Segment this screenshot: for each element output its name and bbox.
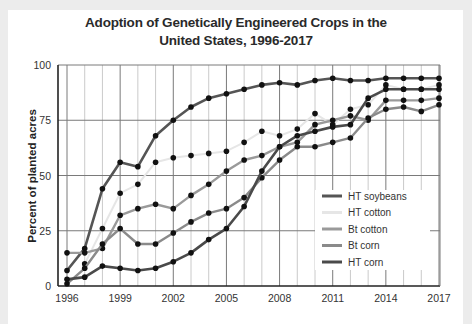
data-point (188, 250, 194, 256)
data-point (100, 263, 106, 269)
data-point (64, 268, 70, 274)
data-point (294, 126, 300, 132)
data-point (330, 140, 336, 146)
x-tick-label: 1996 (55, 292, 79, 304)
data-point (188, 104, 194, 110)
data-point (259, 153, 265, 159)
data-point (117, 190, 123, 196)
data-point (418, 109, 424, 115)
y-axis-label: Percent of planted acres (26, 109, 38, 243)
data-point (117, 159, 123, 165)
data-point (383, 87, 389, 93)
data-point (206, 95, 212, 101)
legend-label: HT corn (348, 257, 383, 268)
data-point (330, 124, 336, 130)
data-point (436, 75, 442, 81)
data-point (436, 87, 442, 93)
data-point (401, 87, 407, 93)
data-point (401, 104, 407, 110)
data-point (348, 135, 354, 141)
data-point (153, 159, 159, 165)
data-point (224, 91, 230, 97)
data-point (224, 168, 230, 174)
data-point (153, 133, 159, 139)
data-point (294, 133, 300, 139)
data-point (348, 113, 354, 119)
legend-label: Bt cotton (348, 224, 387, 235)
data-point (206, 210, 212, 216)
data-point (241, 195, 247, 201)
x-tick-label: 2002 (162, 292, 186, 304)
data-point (135, 206, 141, 212)
data-point (401, 75, 407, 81)
data-point (365, 78, 371, 84)
data-point (241, 140, 247, 146)
data-point (170, 259, 176, 265)
y-tick-label: 50 (39, 170, 51, 182)
y-tick-label: 0 (45, 280, 51, 292)
data-point (188, 193, 194, 199)
data-point (365, 95, 371, 101)
data-point (188, 153, 194, 159)
data-point (153, 241, 159, 247)
data-point (170, 230, 176, 236)
data-point (277, 80, 283, 86)
data-point (170, 117, 176, 123)
data-point (206, 151, 212, 157)
data-point (383, 98, 389, 104)
x-tick-label: 2008 (268, 292, 292, 304)
data-point (348, 106, 354, 112)
x-tick-label: 2017 (427, 292, 451, 304)
data-point (312, 122, 318, 128)
data-point (312, 78, 318, 84)
data-point (259, 129, 265, 135)
legend: HT soybeansHT cottonBt cottonBt cornHT c… (315, 190, 430, 270)
data-point (259, 82, 265, 88)
data-point (418, 75, 424, 81)
data-point (383, 75, 389, 81)
data-point (330, 75, 336, 81)
data-point (135, 182, 141, 188)
data-point (294, 144, 300, 150)
data-point (418, 98, 424, 104)
data-point (82, 250, 88, 256)
data-point (241, 87, 247, 93)
data-point (117, 212, 123, 218)
data-point (294, 82, 300, 88)
data-point (436, 102, 442, 108)
data-point (312, 129, 318, 135)
data-point (259, 168, 265, 174)
data-point (170, 155, 176, 161)
data-point (135, 268, 141, 274)
data-point (170, 206, 176, 212)
data-point (224, 148, 230, 154)
data-point (188, 219, 194, 225)
legend-label: Bt corn (348, 240, 380, 251)
data-point (135, 241, 141, 247)
line-chart: 0255075100199619992002200520082011201420… (0, 0, 472, 324)
x-tick-label: 1999 (108, 292, 132, 304)
data-point (277, 144, 283, 150)
data-point (135, 164, 141, 170)
data-point (401, 98, 407, 104)
data-point (100, 241, 106, 247)
data-point (117, 226, 123, 232)
data-point (330, 117, 336, 123)
x-tick-label: 2011 (321, 292, 344, 304)
data-point (241, 157, 247, 163)
data-point (365, 115, 371, 121)
data-point (64, 250, 70, 256)
data-point (100, 186, 106, 192)
data-point (100, 226, 106, 232)
data-point (64, 277, 70, 283)
data-point (153, 201, 159, 207)
data-point (224, 226, 230, 232)
data-point (206, 237, 212, 243)
data-point (241, 204, 247, 210)
data-point (348, 78, 354, 84)
y-tick-label: 100 (33, 59, 51, 71)
data-point (224, 206, 230, 212)
data-point (312, 111, 318, 117)
data-point (206, 182, 212, 188)
data-point (383, 106, 389, 112)
